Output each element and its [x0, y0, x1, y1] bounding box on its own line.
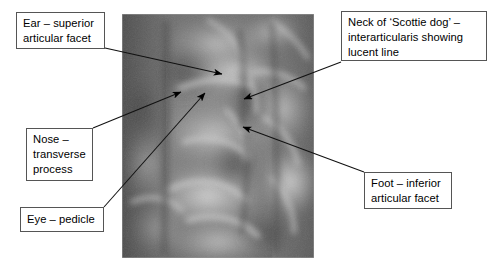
callout-neck-line-1: Neck of ‘Scottie dog’ –	[348, 15, 481, 30]
callout-nose-line-3: process	[33, 162, 87, 177]
callout-nose-transverse-process: Nose – transverse process	[26, 128, 93, 181]
radiograph-canvas	[122, 14, 314, 258]
callout-foot-line-1: Foot – inferior	[371, 176, 446, 191]
callout-nose-line-2: transverse	[33, 147, 87, 162]
callout-neck-scottie-dog-pars-interarticularis: Neck of ‘Scottie dog’ – interarticularis…	[341, 11, 487, 61]
callout-foot-inferior-articular-facet: Foot – inferior articular facet	[364, 172, 452, 209]
scottie-dog-annotated-radiograph-figure: Ear – superior articular facet Nose – tr…	[0, 0, 499, 278]
callout-ear-line-2: articular facet	[23, 31, 99, 46]
callout-ear-superior-articular-facet: Ear – superior articular facet	[16, 12, 105, 49]
callout-eye-pedicle: Eye – pedicle	[20, 207, 104, 232]
callout-eye-line-1: Eye – pedicle	[27, 212, 98, 227]
callout-neck-line-3: lucent line	[348, 45, 481, 60]
callout-nose-line-1: Nose –	[33, 132, 87, 147]
oblique-lumbar-spine-radiograph	[122, 14, 314, 258]
callout-foot-line-2: articular facet	[371, 191, 446, 206]
callout-neck-line-2: interarticularis showing	[348, 30, 481, 45]
callout-ear-line-1: Ear – superior	[23, 16, 99, 31]
